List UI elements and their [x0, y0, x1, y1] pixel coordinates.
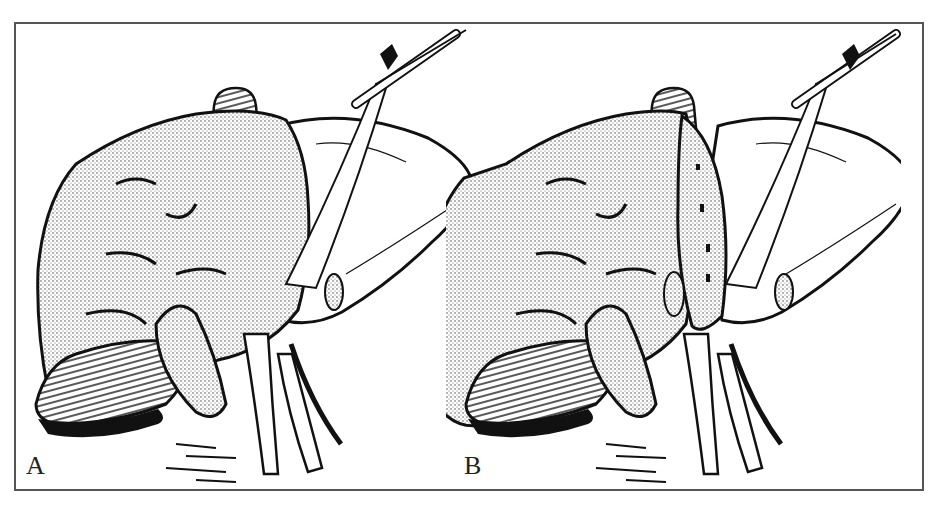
panel-b: B [446, 24, 901, 489]
figure-frame: A [14, 22, 924, 491]
liver-illustration-b [446, 24, 901, 489]
panel-label-b: B [464, 451, 481, 481]
panel-label-a: A [26, 451, 45, 481]
liver-illustration-a [16, 24, 471, 489]
panel-a: A [16, 24, 471, 489]
